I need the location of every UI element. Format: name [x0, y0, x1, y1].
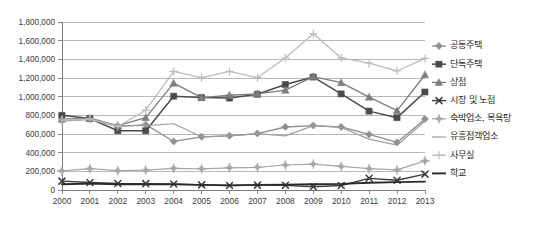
x-tick-label: 2005 [192, 196, 211, 206]
legend-item-7[interactable]: 학교 [432, 168, 466, 178]
series-marker [338, 91, 344, 97]
legend-label: 시장 및 노점 [450, 94, 495, 105]
data-series [58, 30, 430, 190]
x-tick-label: 2013 [416, 196, 435, 206]
series-marker [365, 164, 374, 173]
series-0 [59, 116, 429, 146]
series-marker [170, 138, 177, 145]
series-marker [366, 59, 373, 66]
gridlines [58, 22, 425, 190]
series-marker [225, 163, 234, 172]
y-tick-label: 0 [50, 186, 55, 195]
x-tick-label: 2008 [276, 196, 295, 206]
series-marker [171, 93, 177, 99]
series-marker [226, 68, 233, 75]
legend-label: 단독주택 [450, 59, 482, 69]
line-chart: 0200,000400,000600,000800,0001,000,0001,… [0, 0, 542, 225]
x-tick-label: 2006 [220, 196, 239, 206]
y-tick-label: 400,000 [25, 149, 55, 158]
x-axis-tick-labels: 2000200120022003200420052006200720082009… [53, 196, 435, 206]
legend-label: 유흥접객업소 [450, 130, 498, 141]
series-marker [282, 124, 289, 131]
y-tick-label: 1,800,000 [19, 18, 56, 27]
series-marker [58, 166, 67, 175]
series-marker [281, 161, 290, 170]
series-marker [421, 55, 428, 62]
legend-item-1[interactable]: 단독주택 [432, 59, 482, 69]
series-marker [141, 166, 150, 175]
y-tick-label: 600,000 [25, 130, 55, 139]
legend-swatch-marker [436, 43, 443, 50]
chart-container: 0200,000400,000600,000800,0001,000,0001,… [0, 0, 542, 225]
y-tick-label: 800,000 [25, 111, 55, 120]
legend-item-2[interactable]: 상점 [432, 76, 466, 87]
series-marker [253, 163, 262, 172]
y-tick-label: 1,400,000 [19, 55, 56, 64]
legend-label: 사무실 [450, 150, 474, 160]
series-marker [366, 131, 373, 138]
series-marker [86, 164, 95, 173]
series-marker [394, 115, 400, 121]
x-tick-label: 2002 [109, 196, 128, 206]
legend-swatch-marker [436, 61, 442, 67]
legend-swatch-marker [435, 152, 442, 159]
legend-swatch-marker [435, 114, 444, 123]
legend-item-0[interactable]: 공동주택 [432, 40, 482, 50]
x-tick-label: 2009 [304, 196, 323, 206]
series-2 [58, 71, 428, 128]
series-marker [309, 160, 318, 169]
x-tick-label: 2004 [164, 196, 183, 206]
series-marker [393, 166, 402, 175]
series-4 [58, 156, 430, 175]
series-marker [422, 89, 428, 95]
legend-item-6[interactable]: 사무실 [432, 150, 474, 160]
x-tick-label: 2010 [332, 196, 351, 206]
series-marker [170, 80, 177, 87]
x-tick-label: 2001 [81, 196, 100, 206]
series-marker [421, 156, 430, 165]
legend-label: 상점 [450, 76, 466, 87]
y-tick-label: 1,600,000 [19, 37, 56, 46]
series-marker [393, 67, 400, 74]
series-marker [113, 166, 122, 175]
series-marker [421, 71, 428, 78]
series-marker [337, 162, 346, 171]
y-tick-label: 200,000 [25, 167, 55, 176]
legend-item-5[interactable]: 유흥접객업소 [432, 130, 498, 141]
x-tick-label: 2007 [248, 196, 267, 206]
legend-item-4[interactable]: 숙박업소, 목욕탕 [432, 112, 512, 123]
y-tick-label: 1,200,000 [19, 74, 56, 83]
x-tick-label: 2012 [388, 196, 407, 206]
x-tick-label: 2003 [136, 196, 155, 206]
series-3 [59, 171, 428, 190]
x-tick-label: 2011 [360, 196, 378, 206]
x-tick-label: 2000 [53, 196, 72, 206]
series-marker [197, 164, 206, 173]
y-axis-tick-labels: 0200,000400,000600,000800,0001,000,0001,… [19, 18, 56, 195]
series-line [62, 77, 425, 131]
legend-item-3[interactable]: 시장 및 노점 [432, 94, 495, 105]
legend-label: 학교 [450, 168, 466, 178]
chart-legend: 공동주택단독주택상점시장 및 노점숙박업소, 목욕탕유흥접객업소사무실학교 [432, 40, 512, 177]
legend-label: 공동주택 [450, 40, 482, 50]
legend-label: 숙박업소, 목욕탕 [450, 112, 512, 123]
series-marker [366, 108, 372, 114]
y-tick-label: 1,000,000 [19, 93, 56, 102]
series-marker [198, 74, 205, 81]
series-marker [143, 128, 149, 134]
